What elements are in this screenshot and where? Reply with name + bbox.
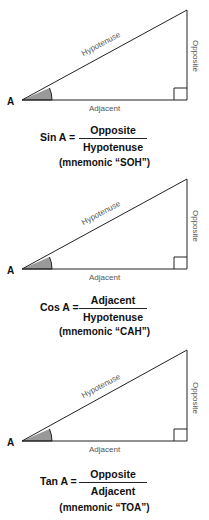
vertex-a-label: A bbox=[7, 437, 14, 448]
formula-lhs: Tan A = bbox=[40, 475, 77, 487]
mnemonic: (mnemonic “SOH”) bbox=[0, 157, 209, 168]
tan-panel: A Hypotenuse Opposite Adjacent Tan A = O… bbox=[0, 345, 209, 520]
formula-lhs: Cos A = bbox=[40, 301, 79, 313]
right-triangle bbox=[0, 170, 209, 280]
fraction-bar bbox=[79, 482, 147, 483]
angle-a-marker bbox=[22, 88, 52, 100]
right-angle-marker bbox=[174, 88, 187, 100]
denominator: Hypotenuse bbox=[79, 311, 147, 324]
fraction-bar bbox=[79, 308, 147, 309]
mnemonic: (mnemonic “CAH”) bbox=[0, 326, 209, 337]
vertex-a-label: A bbox=[7, 265, 14, 276]
numerator: Opposite bbox=[79, 124, 147, 137]
angle-a-marker bbox=[22, 257, 52, 269]
numerator: Opposite bbox=[79, 468, 147, 481]
fraction: Opposite Hypotenuse bbox=[79, 124, 147, 154]
numerator: Adjacent bbox=[79, 294, 147, 307]
adjacent-label: Adjacent bbox=[89, 104, 120, 113]
formula-lhs: Sin A = bbox=[40, 131, 75, 143]
fraction-bar bbox=[79, 138, 147, 139]
right-triangle bbox=[0, 345, 209, 455]
fraction: Adjacent Hypotenuse bbox=[79, 294, 147, 324]
denominator: Hypotenuse bbox=[79, 141, 147, 154]
opposite-label: Opposite bbox=[191, 210, 200, 242]
fraction: Opposite Adjacent bbox=[79, 468, 147, 498]
angle-a-marker bbox=[22, 429, 52, 441]
mnemonic: (mnemonic “TOA”) bbox=[0, 502, 209, 513]
right-triangle bbox=[0, 0, 209, 110]
sin-panel: A Hypotenuse Opposite Adjacent Sin A = O… bbox=[0, 0, 209, 170]
denominator: Adjacent bbox=[79, 485, 147, 498]
right-angle-marker bbox=[174, 429, 187, 441]
vertex-a-label: A bbox=[7, 96, 14, 107]
adjacent-label: Adjacent bbox=[89, 273, 120, 282]
cos-panel: A Hypotenuse Opposite Adjacent Cos A = A… bbox=[0, 170, 209, 345]
opposite-label: Opposite bbox=[191, 382, 200, 414]
opposite-label: Opposite bbox=[191, 40, 200, 72]
right-angle-marker bbox=[174, 257, 187, 269]
adjacent-label: Adjacent bbox=[89, 445, 120, 454]
